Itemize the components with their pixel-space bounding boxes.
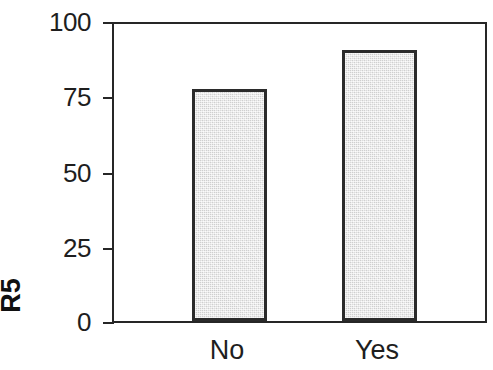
bar-yes[interactable] bbox=[342, 50, 417, 321]
y-tick-label-50: 50 bbox=[0, 160, 91, 186]
y-tick-label-100: 100 bbox=[0, 9, 91, 35]
bar-no[interactable] bbox=[192, 89, 267, 321]
plot-area bbox=[112, 22, 487, 323]
y-tick-label-75: 75 bbox=[0, 84, 91, 110]
x-axis-label-yes: Yes bbox=[355, 337, 399, 364]
chart-canvas: R5 100 75 50 25 0 No Yes bbox=[0, 0, 493, 370]
y-tick-label-25: 25 bbox=[0, 235, 91, 261]
x-axis-label-no: No bbox=[210, 337, 245, 364]
y-tick-label-0: 0 bbox=[0, 309, 91, 335]
